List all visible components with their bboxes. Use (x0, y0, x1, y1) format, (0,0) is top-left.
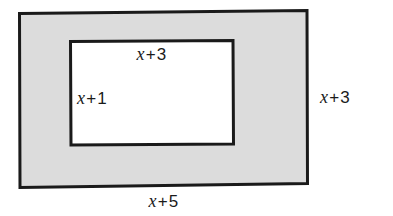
label-outer-right-variable: x (320, 87, 328, 107)
label-inner-left-constant: 1 (97, 89, 107, 108)
label-outer-bottom-operator: + (157, 192, 169, 211)
label-inner-left-side: x+1 (77, 89, 107, 107)
label-outer-bottom-variable: x (149, 191, 157, 211)
label-inner-top-side: x+3 (70, 45, 233, 63)
label-outer-right-constant: 3 (340, 88, 350, 107)
label-inner-left-variable: x (77, 88, 85, 108)
label-outer-right-side: x+3 (320, 88, 350, 106)
label-outer-bottom-side: x+5 (19, 192, 308, 210)
label-inner-top-variable: x (137, 44, 145, 64)
geometry-diagram: x+3 x+1 x+3 x+5 (0, 0, 393, 216)
label-outer-right-operator: + (328, 88, 340, 107)
diagram-canvas (0, 0, 393, 216)
label-inner-left-operator: + (85, 89, 97, 108)
label-outer-bottom-constant: 5 (169, 192, 179, 211)
label-inner-top-operator: + (145, 45, 157, 64)
label-inner-top-constant: 3 (157, 45, 167, 64)
